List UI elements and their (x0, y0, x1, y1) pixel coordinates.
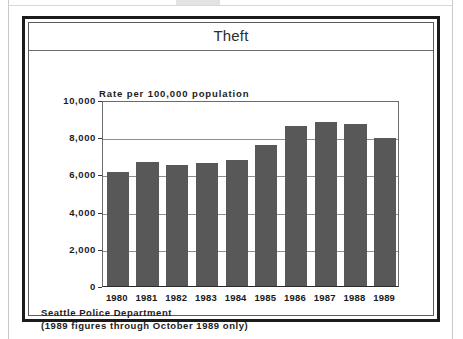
page-edge-top-rule (8, 5, 453, 6)
page-smudge-mark (176, 0, 220, 5)
bar (166, 165, 188, 286)
x-axis-tick-label: 1989 (369, 292, 399, 303)
x-axis-tick-label: 1988 (340, 292, 370, 303)
bar (136, 162, 158, 286)
x-axis-tick-label: 1986 (280, 292, 310, 303)
page-edge-left-rule (8, 0, 9, 339)
y-axis-tick-mark (98, 287, 102, 288)
bar-series (103, 102, 398, 286)
bar (196, 163, 218, 286)
bar (255, 145, 277, 286)
y-axis-tick-label: 6,000 (46, 169, 96, 180)
x-axis-tick-label: 1987 (310, 292, 340, 303)
x-axis-tick-label: 1985 (251, 292, 281, 303)
scanned-page: Theft Rate per 100,000 population 10,000… (0, 0, 463, 339)
bar (344, 124, 366, 286)
chart-area: Rate per 100,000 population 10,0008,0006… (29, 51, 433, 315)
chart-title: Theft (29, 27, 433, 44)
y-axis-tick-label: 10,000 (46, 95, 96, 106)
bar (226, 160, 248, 286)
footnote-line-2: (1989 figures through October 1989 only) (41, 319, 248, 332)
x-axis-tick-label: 1980 (102, 292, 132, 303)
chart-footnote: Seattle Police Department (1989 figures … (41, 306, 248, 332)
x-axis-tick-label: 1982 (161, 292, 191, 303)
x-axis-tick-label: 1983 (191, 292, 221, 303)
figure-title-band: Theft (29, 23, 433, 51)
figure-frame: Theft Rate per 100,000 population 10,000… (22, 16, 440, 322)
bar (374, 138, 396, 286)
y-axis-tick-label: 0 (46, 281, 96, 292)
figure-inner-border: Theft Rate per 100,000 population 10,000… (28, 22, 434, 316)
bar (285, 126, 307, 286)
y-axis-tick-label: 4,000 (46, 207, 96, 218)
y-axis-tick-label: 2,000 (46, 244, 96, 255)
y-axis-tick-label: 8,000 (46, 132, 96, 143)
x-axis-tick-label: 1981 (132, 292, 162, 303)
footnote-line-1: Seattle Police Department (41, 306, 248, 319)
y-axis-title: Rate per 100,000 population (99, 88, 249, 99)
page-edge-right-rule (452, 0, 453, 339)
bar (107, 172, 129, 286)
x-axis-tick-label: 1984 (221, 292, 251, 303)
bar (315, 122, 337, 286)
plot-area (102, 101, 399, 287)
